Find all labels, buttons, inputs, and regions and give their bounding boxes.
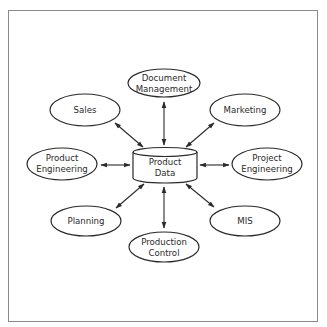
node-document-management: Document Management: [128, 69, 200, 97]
node-label: MIS: [237, 216, 252, 226]
node-label-line-1: Production: [141, 237, 187, 247]
node-label: Marketing: [224, 105, 267, 115]
node-label: Planning: [67, 216, 104, 226]
node-sales: Sales: [50, 94, 120, 126]
node-label-line-2: Control: [148, 248, 179, 258]
node-label-line-1: Document: [142, 73, 187, 83]
node-label-line-2: Management: [136, 84, 193, 94]
hub-product-data: Product Data: [133, 148, 197, 184]
node-label-line-2: Engineering: [241, 164, 293, 174]
hub-label-line-2: Data: [155, 168, 176, 178]
node-mis: MIS: [210, 206, 280, 236]
node-project-engineering: Project Engineering: [232, 148, 302, 180]
node-planning: Planning: [51, 206, 121, 236]
hub-label-line-1: Product: [149, 157, 182, 167]
node-label-line-1: Product: [46, 153, 79, 163]
node-label-line-1: Project: [252, 153, 282, 163]
node-label-line-2: Engineering: [36, 164, 88, 174]
node-marketing: Marketing: [210, 94, 280, 126]
cylinder-top: [133, 148, 197, 157]
diagram-canvas: Product Data Document Management Sales M…: [0, 0, 327, 327]
node-product-engineering: Product Engineering: [27, 148, 97, 180]
node-production-control: Production Control: [129, 232, 199, 262]
node-label: Sales: [74, 105, 97, 115]
